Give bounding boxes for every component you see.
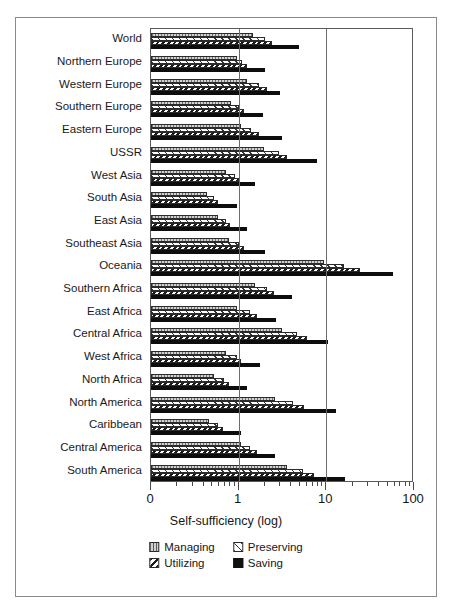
category-label: West Africa — [16, 350, 142, 362]
category-label: Northern Europe — [16, 55, 142, 67]
x-tick-minor — [299, 482, 300, 486]
legend-label: Preserving — [248, 541, 303, 553]
category-label: South Asia — [16, 191, 142, 203]
x-tick-minor — [317, 482, 318, 486]
category-label: East Asia — [16, 214, 142, 226]
category-label: Eastern Europe — [16, 123, 142, 135]
x-tick-minor — [290, 482, 291, 486]
legend-item: Utilizing — [149, 557, 215, 569]
bar-group — [151, 374, 412, 390]
legend-label: Managing — [164, 541, 215, 553]
bar-group — [151, 33, 412, 49]
saving-swatch-icon — [233, 558, 243, 568]
bar-saving — [151, 386, 247, 390]
x-tick-label: 100 — [402, 491, 424, 506]
x-axis-tick-labels: 0110100 — [110, 491, 455, 509]
x-tick-minor — [394, 482, 395, 486]
x-tick-label: 10 — [318, 491, 332, 506]
x-tick-major — [413, 482, 414, 490]
x-tick-minor — [218, 482, 219, 486]
category-label: Central Africa — [16, 327, 142, 339]
category-label: North America — [16, 396, 142, 408]
bar-saving — [151, 431, 241, 435]
bar-group — [151, 283, 412, 299]
bar-saving — [151, 295, 292, 299]
bar-saving — [151, 182, 255, 186]
bar-group — [151, 101, 412, 117]
legend: ManagingPreservingUtilizingSaving — [15, 541, 437, 581]
x-tick-minor — [203, 482, 204, 486]
bar-saving — [151, 159, 317, 163]
bar-group — [151, 124, 412, 140]
category-label: Southern Europe — [16, 100, 142, 112]
bar-saving — [151, 136, 282, 140]
x-tick-minor — [405, 482, 406, 486]
x-axis-ticks — [150, 482, 413, 490]
bar-rows — [151, 29, 412, 481]
x-tick-minor — [387, 482, 388, 486]
category-label: Western Europe — [16, 78, 142, 90]
x-tick-minor — [229, 482, 230, 486]
x-tick-minor — [224, 482, 225, 486]
x-tick-label: 1 — [234, 491, 241, 506]
legend-item: Preserving — [233, 541, 303, 553]
bar-saving — [151, 113, 263, 117]
bar-saving — [151, 318, 276, 322]
bar-saving — [151, 204, 237, 208]
x-tick-minor — [312, 482, 313, 486]
bar-group — [151, 260, 412, 276]
bar-saving — [151, 409, 336, 413]
bar-saving — [151, 272, 393, 276]
figure-root: WorldNorthern EuropeWestern EuropeSouthe… — [0, 0, 455, 614]
bar-group — [151, 419, 412, 435]
x-tick-minor — [176, 482, 177, 486]
utilizing-swatch-icon — [149, 558, 159, 568]
x-tick-minor — [378, 482, 379, 486]
preserving-swatch-icon — [233, 542, 243, 552]
x-tick-major — [325, 482, 326, 490]
bar-group — [151, 192, 412, 208]
bar-saving — [151, 227, 247, 231]
x-tick-minor — [367, 482, 368, 486]
plot-wrap — [150, 28, 413, 482]
bar-group — [151, 79, 412, 95]
bar-group — [151, 351, 412, 367]
x-tick-minor — [211, 482, 212, 486]
x-axis-title: Self-sufficiency (log) — [15, 514, 437, 528]
bar-group — [151, 397, 412, 413]
x-tick-minor — [234, 482, 235, 486]
x-tick-minor — [321, 482, 322, 486]
category-label: Southern Africa — [16, 282, 142, 294]
bar-saving — [151, 363, 260, 367]
bar-group — [151, 306, 412, 322]
managing-swatch-icon — [149, 542, 159, 552]
category-axis-labels: WorldNorthern EuropeWestern EuropeSouthe… — [20, 28, 146, 482]
bar-group — [151, 238, 412, 254]
legend-items: ManagingPreservingUtilizingSaving — [149, 541, 302, 569]
x-tick-minor — [192, 482, 193, 486]
legend-item: Managing — [149, 541, 215, 553]
category-label: North Africa — [16, 373, 142, 385]
x-tick-minor — [399, 482, 400, 486]
category-label: Southeast Asia — [16, 237, 142, 249]
x-tick-minor — [409, 482, 410, 486]
x-tick-minor — [279, 482, 280, 486]
bar-saving — [151, 250, 265, 254]
legend-item: Saving — [233, 557, 303, 569]
bar-saving — [151, 454, 275, 458]
x-tick-major — [238, 482, 239, 490]
plot-area — [150, 28, 413, 482]
category-label: South America — [16, 464, 142, 476]
x-tick-minor — [352, 482, 353, 486]
category-label: Caribbean — [16, 418, 142, 430]
legend-label: Saving — [248, 557, 283, 569]
bar-group — [151, 328, 412, 344]
bar-saving — [151, 68, 265, 72]
bar-saving — [151, 45, 299, 49]
legend-label: Utilizing — [164, 557, 204, 569]
x-tick-minor — [306, 482, 307, 486]
x-tick-label: 0 — [146, 491, 153, 506]
category-label: Central America — [16, 441, 142, 453]
category-label: East Africa — [16, 305, 142, 317]
category-label: World — [16, 32, 142, 44]
